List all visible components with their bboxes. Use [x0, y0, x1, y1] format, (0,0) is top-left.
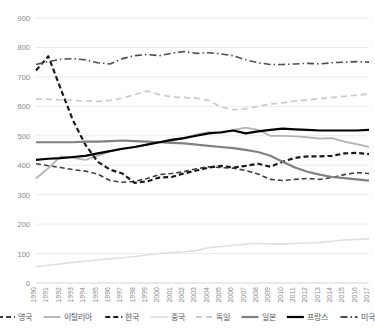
line-chart: 0100200300400500600700800900199019911992…	[0, 0, 375, 333]
x-axis-tick-label: 2010	[277, 287, 284, 303]
series-line-0	[36, 164, 369, 183]
x-axis-tick-label: 1998	[129, 287, 136, 303]
x-axis-tick-label: 1994	[79, 287, 86, 303]
x-axis-tick-label: 1996	[104, 287, 111, 303]
y-axis-tick-label: 900	[17, 14, 30, 23]
y-axis-tick-label: 0	[26, 279, 30, 288]
x-axis-tick-label: 1997	[116, 287, 123, 303]
x-axis-tick-label: 1991	[42, 287, 49, 303]
legend-item-2[interactable]: 한국	[105, 313, 139, 322]
x-axis-tick-label: 2007	[240, 287, 247, 303]
x-axis-tick-label: 1995	[92, 287, 99, 303]
x-axis-tick-label: 2009	[264, 287, 271, 303]
legend-item-1[interactable]: 이탈리아	[44, 312, 93, 322]
x-axis-tick-label: 1993	[67, 287, 74, 303]
x-axis-tick-label: 2003	[190, 287, 197, 303]
y-axis-tick-label: 300	[17, 191, 30, 200]
legend-item-6[interactable]: 프랑스	[287, 312, 328, 322]
x-axis-tick-label: 2011	[289, 287, 296, 302]
legend-item-0[interactable]: 영국	[0, 312, 32, 322]
legend-item-7[interactable]: 미국	[341, 313, 375, 322]
y-axis-tick-label: 200	[17, 220, 30, 229]
x-axis-tick-label: 2001	[166, 287, 173, 303]
y-axis-tick-label: 800	[17, 43, 30, 52]
legend-label-3: 중국	[171, 313, 185, 322]
x-axis-tick-label: 2002	[178, 287, 185, 303]
x-axis-tick-label: 2000	[153, 287, 160, 303]
gridlines: 0100200300400500600700800900	[17, 14, 369, 288]
legend-label-1: 이탈리아	[64, 312, 93, 322]
x-axis-tick-label: 1999	[141, 287, 148, 303]
legend-item-5[interactable]: 일본	[242, 313, 276, 322]
series-line-3	[36, 239, 369, 267]
legend-label-0: 영국	[18, 312, 32, 322]
x-axis-tick-label: 2008	[252, 287, 259, 303]
x-axis-tick-label: 2005	[215, 287, 222, 303]
x-axis-tick-label: 2017	[363, 287, 370, 303]
x-axis-tick-label: 2006	[227, 287, 234, 303]
y-axis-tick-label: 600	[17, 102, 30, 111]
series-line-2	[36, 56, 369, 183]
legend-label-4: 독일	[216, 313, 230, 322]
y-axis-tick-label: 100	[17, 250, 30, 259]
x-axis-tick-label: 2016	[351, 287, 358, 303]
legend-label-6: 프랑스	[307, 312, 328, 322]
x-axis-tick-label: 1992	[55, 287, 62, 303]
legend: 영국이탈리아한국중국독일일본프랑스미국	[0, 312, 374, 322]
x-axis-tick-label: 2004	[203, 287, 210, 303]
x-axis-tick-label: 2012	[301, 287, 308, 303]
series-lines	[36, 52, 369, 267]
series-line-7	[36, 52, 369, 65]
legend-label-5: 일본	[262, 313, 276, 322]
x-axis-tick-label: 2015	[338, 287, 345, 303]
legend-label-7: 미국	[361, 313, 375, 322]
legend-label-2: 한국	[125, 313, 139, 322]
x-axis-tick-label: 1990	[30, 287, 37, 303]
legend-item-3[interactable]: 중국	[151, 313, 185, 322]
x-axis-tick-label: 2014	[326, 287, 333, 303]
legend-item-4[interactable]: 독일	[196, 313, 230, 322]
x-axis-tick-label: 2013	[314, 287, 321, 303]
chart-canvas: 0100200300400500600700800900199019911992…	[0, 0, 375, 333]
y-axis-tick-label: 500	[17, 132, 30, 141]
y-axis-tick-label: 400	[17, 161, 30, 170]
x-axis-tick-labels: 1990199119921993199419951996199719981999…	[30, 287, 370, 303]
series-line-4	[36, 91, 369, 110]
y-axis-tick-label: 700	[17, 73, 30, 82]
